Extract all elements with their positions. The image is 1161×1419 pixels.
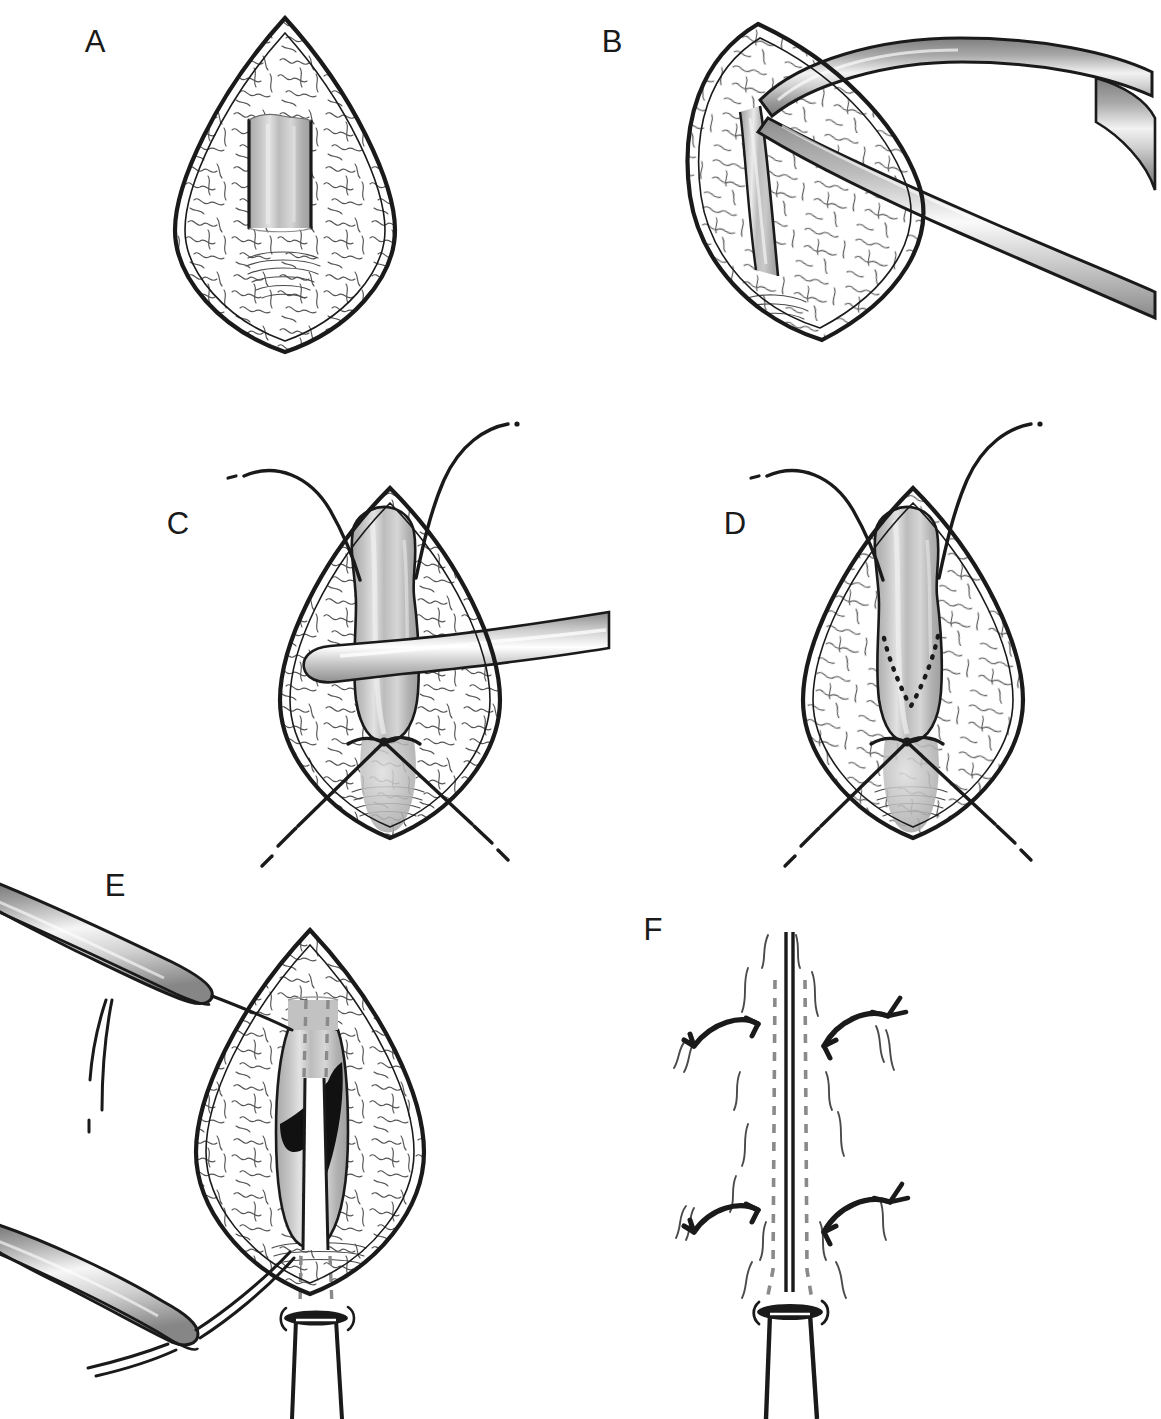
panel-d-tubular-structure [875, 507, 942, 833]
panel-e-white-tube [303, 1078, 328, 1250]
figure-container: A [0, 0, 1161, 1419]
panel-c-suture-knot [379, 737, 388, 746]
panel-d-suture-knot [902, 737, 911, 746]
panel-a-central-structure [249, 114, 311, 231]
panel-label-b: B [602, 24, 623, 59]
panel-label-d: D [724, 506, 746, 541]
panel-label-c: C [167, 506, 189, 541]
panel-label-f: F [644, 912, 663, 947]
panel-label-e: E [105, 868, 126, 903]
panel-label-a: A [85, 24, 106, 59]
surgical-figure: A [0, 0, 1161, 1419]
